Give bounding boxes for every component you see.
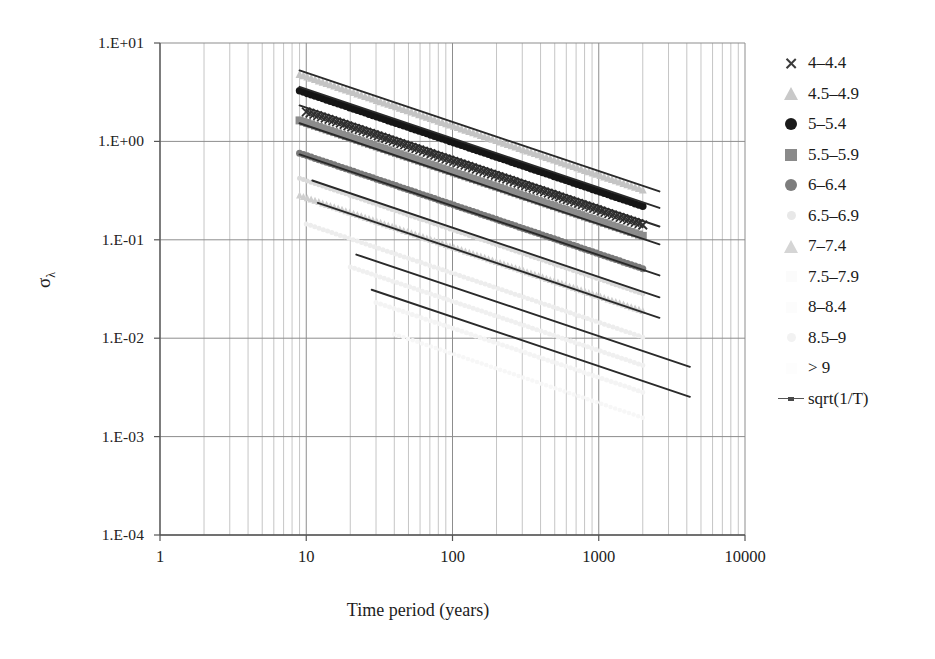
legend-marker-triangle-icon	[778, 81, 804, 107]
legend-item-label: 8.5–9	[804, 328, 846, 348]
legend-marker-cross-icon	[778, 50, 804, 76]
legend-item[interactable]: 6.5–6.9	[778, 201, 928, 232]
x-axis-title: Time period (years)	[228, 600, 608, 621]
y-tick-label: 1.E-03	[52, 429, 144, 445]
chart-legend: 4–4.44.5–4.95–5.45.5–5.96–6.46.5–6.97–7.…	[778, 48, 928, 414]
legend-item[interactable]: 5–5.4	[778, 109, 928, 140]
y-tick-label: 1.E-02	[52, 330, 144, 346]
legend-item[interactable]: 6–6.4	[778, 170, 928, 201]
x-tick-label: 10	[246, 549, 366, 566]
x-tick-label: 1000	[539, 549, 659, 566]
legend-item-label: 4.5–4.9	[804, 84, 859, 104]
y-tick-label: 1.E+00	[52, 133, 144, 149]
legend-marker-none-icon	[778, 294, 804, 320]
y-axis-title: σλ	[22, 258, 66, 302]
legend-marker-square-icon	[778, 142, 804, 168]
legend-item-label: 7–7.4	[804, 236, 846, 256]
legend-marker-circle-icon	[778, 111, 804, 137]
x-tick-label: 100	[393, 549, 513, 566]
legend-marker-circle-icon	[778, 172, 804, 198]
data-series	[296, 87, 647, 210]
legend-item-label: sqrt(1/T)	[804, 389, 868, 409]
legend-marker-dot-icon	[778, 325, 804, 351]
legend-item[interactable]: 7.5–7.9	[778, 262, 928, 293]
x-tick-label: 10000	[685, 549, 805, 566]
legend-item[interactable]: 8.5–9	[778, 323, 928, 354]
grid-lines	[160, 43, 745, 535]
legend-item-label: 5–5.4	[804, 114, 846, 134]
data-series	[374, 300, 646, 395]
legend-marker-none-icon	[778, 264, 804, 290]
chart-figure: 1.E+011.E+001.E-011.E-021.E-031.E-04 110…	[0, 0, 935, 659]
legend-item-label: 4–4.4	[804, 53, 846, 73]
legend-item[interactable]: > 9	[778, 353, 928, 384]
legend-marker-line-icon	[778, 386, 804, 412]
y-tick-label: 1.E-01	[52, 232, 144, 248]
legend-item-label: > 9	[804, 358, 830, 378]
legend-item[interactable]: sqrt(1/T)	[778, 384, 928, 415]
legend-item-label: 6.5–6.9	[804, 206, 859, 226]
legend-item[interactable]: 4–4.4	[778, 48, 928, 79]
legend-item[interactable]: 5.5–5.9	[778, 140, 928, 171]
legend-item[interactable]: 4.5–4.9	[778, 79, 928, 110]
legend-item-label: 5.5–5.9	[804, 145, 859, 165]
y-tick-label: 1.E-04	[52, 527, 144, 543]
legend-marker-triangle-icon	[778, 233, 804, 259]
data-series	[304, 221, 646, 339]
y-tick-label: 1.E+01	[52, 35, 144, 51]
y-axis-title-subscript: λ	[44, 272, 58, 278]
y-axis-title-base: σ	[33, 278, 54, 288]
legend-marker-none-icon	[778, 355, 804, 381]
axis-frame	[154, 43, 745, 541]
x-tick-label: 1	[100, 549, 220, 566]
legend-item-label: 7.5–7.9	[804, 267, 859, 287]
legend-marker-dot-icon	[778, 203, 804, 229]
legend-item-label: 6–6.4	[804, 175, 846, 195]
legend-item[interactable]: 8–8.4	[778, 292, 928, 323]
legend-item-label: 8–8.4	[804, 297, 846, 317]
legend-item[interactable]: 7–7.4	[778, 231, 928, 262]
